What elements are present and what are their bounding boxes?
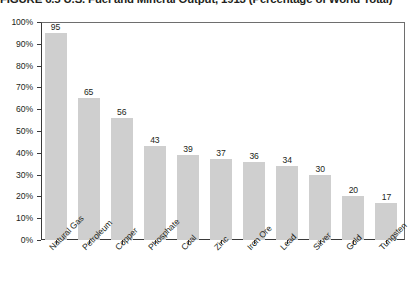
y-tick-label: 60%: [16, 104, 33, 114]
bar-group[interactable]: 36: [243, 22, 265, 240]
bar-group[interactable]: 20: [342, 22, 364, 240]
bar-group[interactable]: 30: [309, 22, 331, 240]
bar-group[interactable]: 65: [78, 22, 100, 240]
bar-group[interactable]: 43: [144, 22, 166, 240]
bar[interactable]: [144, 146, 166, 240]
bar-group[interactable]: 95: [45, 22, 67, 240]
y-tick-label: 100%: [11, 17, 33, 27]
bar-value-label: 43: [150, 135, 159, 145]
y-tick-label: 30%: [16, 170, 33, 180]
bar[interactable]: [111, 118, 133, 240]
bar-value-label: 36: [249, 151, 258, 161]
bar-value-label: 95: [51, 22, 60, 32]
bar-value-label: 37: [216, 148, 225, 158]
bar-value-label: 39: [183, 144, 192, 154]
bar[interactable]: [45, 33, 67, 240]
bar[interactable]: [210, 159, 232, 240]
bar-value-label: 56: [117, 107, 126, 117]
bar-value-label: 34: [282, 155, 291, 165]
bar-group[interactable]: 39: [177, 22, 199, 240]
y-tick-label: 20%: [16, 191, 33, 201]
y-tick-label: 10%: [16, 213, 33, 223]
bar-group[interactable]: 34: [276, 22, 298, 240]
y-tick-label: 80%: [16, 61, 33, 71]
bar-value-label: 65: [84, 87, 93, 97]
bar-chart: 0%10%20%30%40%50%60%70%80%90%100% 956556…: [0, 0, 418, 294]
y-tick-label: 70%: [16, 82, 33, 92]
y-tick-label: 40%: [16, 148, 33, 158]
bar-value-label: 17: [382, 192, 391, 202]
bar[interactable]: [309, 175, 331, 240]
bar-group[interactable]: 17: [375, 22, 397, 240]
bars-layer: 9565564339373634302017: [41, 22, 405, 240]
y-axis: 0%10%20%30%40%50%60%70%80%90%100%: [0, 0, 41, 294]
bar-group[interactable]: 56: [111, 22, 133, 240]
bar[interactable]: [342, 196, 364, 240]
y-tick-label: 0%: [21, 235, 33, 245]
y-tick-label: 50%: [16, 126, 33, 136]
bar-value-label: 20: [349, 185, 358, 195]
bar[interactable]: [177, 155, 199, 240]
bar-value-label: 30: [316, 164, 325, 174]
x-axis: Natural GasPetroleumCopperPhosphateCoalZ…: [41, 245, 418, 294]
bar[interactable]: [276, 166, 298, 240]
y-tick-label: 90%: [16, 39, 33, 49]
bar-group[interactable]: 37: [210, 22, 232, 240]
